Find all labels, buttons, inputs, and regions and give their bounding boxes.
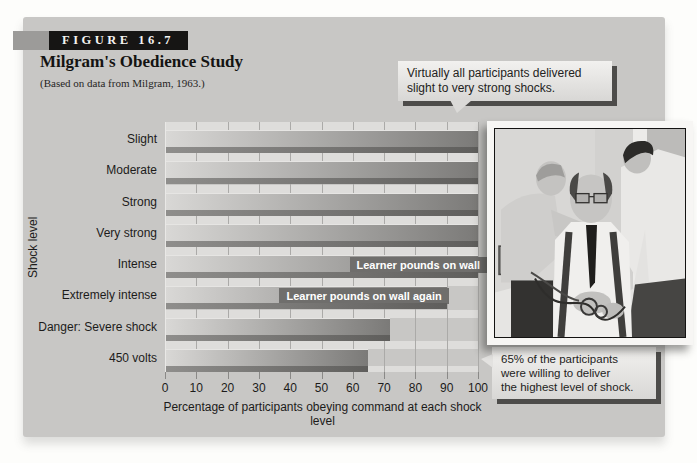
axis-tick <box>165 372 166 379</box>
bar: Learner pounds on wall <box>165 255 478 273</box>
axis-tick <box>259 372 260 379</box>
gridline <box>478 122 479 372</box>
bar-annotation: Learner pounds on wall again <box>279 288 448 304</box>
axis-tick <box>415 372 416 379</box>
x-tick-label: 60 <box>338 381 368 395</box>
category-label: Intense <box>27 257 157 271</box>
axis-tick <box>447 372 448 379</box>
photo-illustration <box>495 129 685 337</box>
bar-shadow <box>165 272 478 278</box>
x-tick-label: 70 <box>369 381 399 395</box>
figure-tag-label: FIGURE 16.7 <box>49 31 188 50</box>
bar-shadow <box>165 335 390 341</box>
figure-tag: FIGURE 16.7 <box>13 31 188 50</box>
zero-axis-line <box>165 122 166 372</box>
bar <box>165 224 478 242</box>
callout-top-line2: slight to very strong shocks. <box>407 81 603 96</box>
bar-shadow <box>165 178 478 184</box>
callout-top-line1: Virtually all participants delivered <box>407 66 603 81</box>
figure-tag-stub <box>13 31 49 50</box>
axis-tick <box>478 372 479 379</box>
bar: Learner pounds on wall again <box>165 286 447 304</box>
bar-shadow <box>165 241 478 247</box>
gridline <box>415 122 416 372</box>
x-tick-label: 20 <box>213 381 243 395</box>
x-tick-label: 100 <box>463 381 493 395</box>
x-tick-label: 80 <box>400 381 430 395</box>
x-tick-label: 30 <box>244 381 274 395</box>
category-label: Moderate <box>27 163 157 177</box>
x-axis-label: Percentage of participants obeying comma… <box>150 400 495 428</box>
bar-shadow <box>165 366 368 372</box>
category-label: Very strong <box>27 226 157 240</box>
bar <box>165 193 478 211</box>
callout-bottom-line2: were willing to deliver <box>501 366 647 380</box>
x-tick-label: 90 <box>432 381 462 395</box>
figure-subtitle: (Based on data from Milgram, 1963.) <box>40 77 205 89</box>
axis-tick <box>290 372 291 379</box>
category-label: Strong <box>27 195 157 209</box>
callout-bottom-line1: 65% of the participants <box>501 352 647 366</box>
x-tick-label: 50 <box>307 381 337 395</box>
bar-shadow <box>165 303 447 309</box>
bar-chart-plot: Learner pounds on wallLearner pounds on … <box>165 122 478 372</box>
axis-tick <box>322 372 323 379</box>
gridline <box>447 122 448 372</box>
axis-tick <box>384 372 385 379</box>
photo-frame <box>494 128 686 338</box>
bar-shadow <box>165 147 478 153</box>
category-label: Slight <box>27 132 157 146</box>
callout-bottom-tail <box>481 354 493 368</box>
bar-shadow <box>165 210 478 216</box>
category-label: Extremely intense <box>27 288 157 302</box>
category-label: Danger: Severe shock <box>27 320 157 334</box>
axis-tick <box>353 372 354 379</box>
axis-tick <box>228 372 229 379</box>
figure-title: Milgram's Obedience Study <box>40 52 243 72</box>
bar <box>165 318 390 336</box>
y-axis-label: Shock level <box>26 122 40 372</box>
axis-tick <box>196 372 197 379</box>
x-tick-label: 10 <box>181 381 211 395</box>
callout-top-tail <box>450 100 472 113</box>
bar <box>165 161 478 179</box>
bar-annotation: Learner pounds on wall <box>350 257 487 273</box>
category-label: 450 volts <box>27 351 157 365</box>
callout-top: Virtually all participants delivered sli… <box>398 61 612 101</box>
callout-bottom-line3: the highest level of shock. <box>501 380 647 394</box>
bar <box>165 349 368 367</box>
x-tick-label: 40 <box>275 381 305 395</box>
callout-bottom: 65% of the participants were willing to … <box>492 347 656 399</box>
milgram-experiment-photo <box>487 121 693 345</box>
bar <box>165 130 478 148</box>
x-tick-label: 0 <box>150 381 180 395</box>
